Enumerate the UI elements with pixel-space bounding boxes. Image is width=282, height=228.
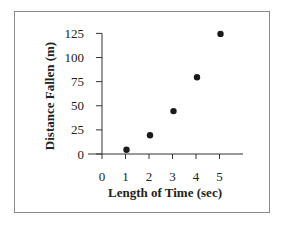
y-tick-label: 125 [65,26,85,41]
axes: 0123450255075100125 [65,26,244,184]
x-tick-label: 5 [216,169,223,184]
x-tick-label: 0 [99,169,106,184]
y-axis-label: Distance Fallen (m) [42,42,57,150]
y-tick-label: 75 [71,74,84,89]
x-tick-label: 2 [146,169,153,184]
x-tick-label: 1 [122,169,129,184]
y-tick-label: 100 [65,50,85,65]
data-points [123,31,223,153]
y-tick-label: 50 [71,98,84,113]
scatter-chart: 0123450255075100125 Length of Time (sec)… [0,0,282,228]
y-tick-label: 0 [78,147,85,162]
data-point [217,31,223,37]
x-tick-label: 3 [169,169,176,184]
x-tick-label: 4 [193,169,200,184]
x-axis-label: Length of Time (sec) [108,185,222,200]
data-point [170,108,176,114]
data-point [194,74,200,80]
y-tick-label: 25 [71,122,84,137]
data-point [147,132,153,138]
data-point [123,146,129,152]
